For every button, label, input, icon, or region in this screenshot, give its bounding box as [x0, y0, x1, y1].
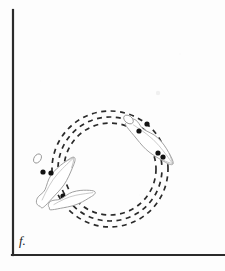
- organism-head-loop: [32, 152, 43, 164]
- figure-panel: f.: [0, 0, 225, 271]
- body-dot: [48, 170, 53, 175]
- body-dot: [155, 150, 160, 155]
- body-dot: [40, 169, 45, 174]
- organism-left-head: [32, 152, 43, 164]
- panel-label: f.: [19, 234, 26, 247]
- caption-sliver: [16, 263, 206, 271]
- body-dot: [136, 128, 141, 133]
- axis-group: [12, 10, 225, 255]
- scan-speck: [156, 91, 160, 95]
- figure-drawing: [0, 0, 225, 271]
- body-dot: [160, 154, 165, 159]
- body-dot: [144, 121, 149, 126]
